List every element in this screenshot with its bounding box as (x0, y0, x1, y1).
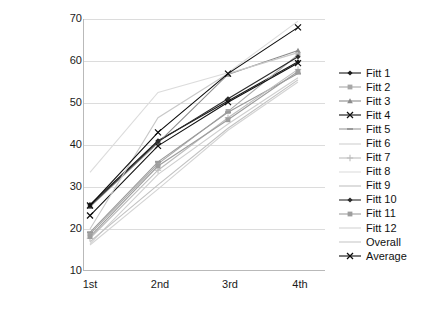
line-chart: 70 60 50 40 30 20 10 1st 2nd 3rd 4th Fit… (0, 0, 434, 322)
data-point-marker-triangle (295, 48, 301, 53)
legend-item-fitt-7[interactable]: Fitt 7 (337, 151, 433, 165)
data-point-marker-square (88, 234, 93, 239)
legend-item-fitt-3[interactable]: Fitt 3 (337, 94, 433, 108)
legend-item-label: Fitt 10 (363, 194, 397, 205)
legend-item-fitt-9[interactable]: Fitt 9 (337, 179, 433, 193)
legend-item-fitt-1[interactable]: Fitt 1 (337, 66, 433, 80)
data-point-marker-plus (347, 154, 353, 160)
series-fitt-12 (90, 82, 298, 245)
data-point-marker-cross (87, 213, 93, 219)
x-tick-4th: 4th (270, 278, 330, 290)
legend-item-label: Overall (363, 237, 401, 248)
series-fitt-7 (87, 66, 301, 241)
legend-item-label: Average (363, 251, 407, 262)
legend-item-label: Fitt 6 (363, 138, 390, 149)
legend-key-icon (337, 222, 363, 234)
x-tick-1st: 1st (60, 278, 120, 290)
legend-item-fitt-6[interactable]: Fitt 6 (337, 136, 433, 150)
legend-key-icon (337, 109, 363, 121)
legend-item-label: Fitt 7 (363, 152, 390, 163)
legend-key-icon (337, 194, 363, 206)
legend-item-fitt-4[interactable]: Fitt 4 (337, 108, 433, 122)
legend-item-label: Fitt 4 (363, 110, 390, 121)
data-point-marker-diamond (347, 197, 352, 202)
data-point-marker-cross (155, 129, 161, 135)
x-tick-2nd: 2nd (130, 278, 190, 290)
legend-item-label: Fitt 3 (363, 96, 390, 107)
legend-item-fitt-5[interactable]: Fitt 5 (337, 122, 433, 136)
data-point-marker-square (156, 164, 161, 169)
legend-key-icon (337, 180, 363, 192)
legend-item-fitt-11[interactable]: Fitt 11 (337, 207, 433, 221)
legend-item-label: Fitt 5 (363, 124, 390, 135)
legend-item-label: Fitt 8 (363, 166, 390, 177)
legend-key-icon (337, 208, 363, 220)
legend-item-label: Fitt 11 (363, 208, 396, 219)
legend-item-label: Fitt 1 (363, 68, 390, 79)
legend-item-fitt-8[interactable]: Fitt 8 (337, 165, 433, 179)
legend-key-icon (337, 67, 363, 79)
legend-item-average[interactable]: Average (337, 249, 433, 263)
legend-key-icon (337, 152, 363, 164)
legend-key-icon (337, 123, 363, 135)
data-point-marker-square (348, 85, 353, 90)
data-point-marker-cross (295, 24, 301, 30)
series-fitt-8 (90, 21, 298, 172)
data-point-marker-square (226, 117, 231, 122)
legend-item-overall[interactable]: Overall (337, 235, 433, 249)
x-tick-3rd: 3rd (200, 278, 260, 290)
legend-item-label: Fitt 12 (363, 223, 397, 234)
data-point-marker-diamond (347, 70, 352, 75)
data-point-marker-square (296, 69, 301, 74)
legend-key-icon (337, 250, 363, 262)
legend-item-label: Fitt 2 (363, 82, 390, 93)
legend-item-fitt-2[interactable]: Fitt 2 (337, 80, 433, 94)
legend-key-icon (337, 95, 363, 107)
legend-key-icon (337, 138, 363, 150)
legend: Fitt 1Fitt 2Fitt 3Fitt 4Fitt 5Fitt 6Fitt… (337, 66, 433, 263)
legend-item-fitt-12[interactable]: Fitt 12 (337, 221, 433, 235)
series-fitt-4 (87, 60, 301, 218)
legend-key-icon (337, 166, 363, 178)
legend-item-fitt-10[interactable]: Fitt 10 (337, 193, 433, 207)
legend-item-label: Fitt 9 (363, 180, 390, 191)
legend-key-icon (337, 81, 363, 93)
data-point-marker-square (348, 212, 353, 217)
legend-key-icon (337, 236, 363, 248)
series-fitt-3 (87, 48, 301, 209)
